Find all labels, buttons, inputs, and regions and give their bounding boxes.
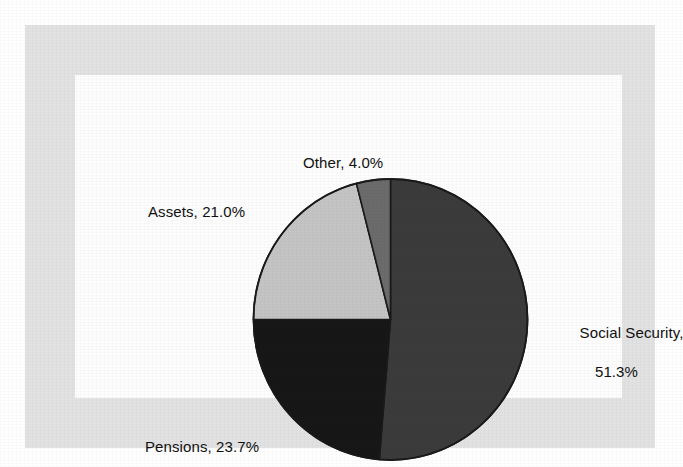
pie-slice-social-security bbox=[379, 179, 527, 460]
pie-label-other: Other, 4.0% bbox=[303, 153, 383, 173]
pie-label-assets: Assets, 21.0% bbox=[148, 202, 245, 222]
pie-label-social-security-line2: 51.3% bbox=[554, 362, 679, 382]
chart-plot-panel: Other, 4.0% Assets, 21.0% Pensions, 23.7… bbox=[75, 75, 622, 398]
pie-slice-pensions bbox=[254, 320, 391, 460]
pie-slice-group bbox=[254, 179, 528, 460]
pie-label-social-security: Social Security, 51.3% bbox=[554, 303, 679, 422]
pie-label-pensions: Pensions, 23.7% bbox=[145, 437, 259, 457]
figure-root: Other, 4.0% Assets, 21.0% Pensions, 23.7… bbox=[0, 0, 683, 467]
pie-chart-svg bbox=[252, 178, 529, 461]
pie-label-social-security-line1: Social Security, bbox=[580, 324, 683, 341]
pie-chart bbox=[252, 178, 529, 461]
